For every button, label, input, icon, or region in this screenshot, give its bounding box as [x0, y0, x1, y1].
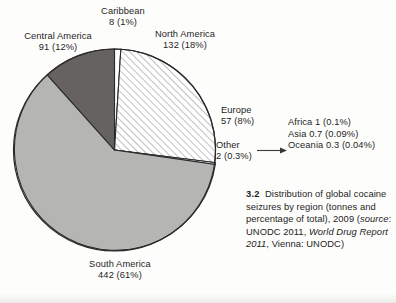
pie-label-europe-value: 57 (8%): [221, 116, 281, 127]
pie-label-caribbean-name: Caribbean: [82, 6, 164, 17]
other-breakout-list: Africa 1 (0.1%) Asia 0.7 (0.09%) Oceania…: [288, 117, 394, 152]
pie-label-north-america-name: North America: [137, 29, 233, 40]
other-breakout-arrow-icon: [257, 146, 287, 155]
figure-caption: 3.2 Distribution of global cocaine seizu…: [246, 188, 392, 251]
pie-label-europe: Europe 57 (8%): [221, 105, 281, 128]
pie-label-central-america-value: 91 (12%): [3, 42, 113, 53]
pie-label-south-america: South America 442 (61%): [60, 259, 180, 282]
figure-cocaine-seizures-pie: Caribbean 8 (1%) Central America 91 (12%…: [0, 0, 396, 303]
pie-label-central-america-name: Central America: [3, 31, 113, 42]
pie-label-south-america-value: 442 (61%): [60, 270, 180, 281]
breakout-item-africa: Africa 1 (0.1%): [288, 117, 394, 129]
figure-number: 3.2: [246, 188, 260, 199]
pie-label-central-america: Central America 91 (12%): [3, 31, 113, 54]
breakout-item-asia: Asia 0.7 (0.09%): [288, 129, 394, 141]
pie-label-north-america-value: 132 (18%): [137, 40, 233, 51]
caption-text-part3: , Vienna: UNODC): [266, 238, 344, 249]
pie-label-caribbean-value: 8 (1%): [82, 17, 164, 28]
pie-chart-svg: [12, 48, 217, 252]
pie-chart: [12, 48, 217, 252]
pie-label-europe-name: Europe: [221, 105, 281, 116]
caption-source-italic: source: [360, 213, 388, 224]
pie-label-north-america: North America 132 (18%): [137, 29, 233, 52]
pie-label-south-america-name: South America: [60, 259, 180, 270]
pie-label-caribbean: Caribbean 8 (1%): [82, 6, 164, 29]
breakout-item-oceania: Oceania 0.3 (0.04%): [288, 140, 394, 152]
scan-edge-shadow: [0, 293, 396, 303]
